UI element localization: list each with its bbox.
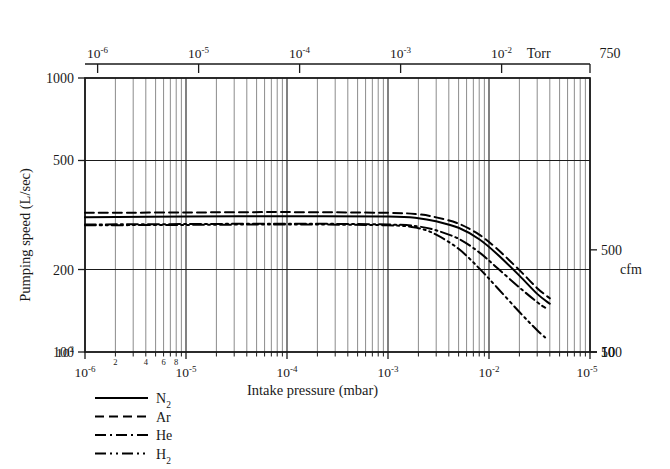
top-tick-label-1: 10-5 <box>188 45 209 61</box>
top-axis-end-label: 750 <box>600 46 621 61</box>
legend-label-he: He <box>156 428 172 443</box>
left-tick-label-500: 500 <box>53 153 74 168</box>
y-axis-title: Pumping speed (L/sec) <box>17 168 34 302</box>
bottom-minor-label-4: 4 <box>144 357 149 367</box>
bottom-tick-label-1: 10-5 <box>176 364 197 380</box>
top-axis-unit: Torr <box>527 46 551 61</box>
left-tick-label-200: 200 <box>53 263 74 278</box>
right-tick-label-500: 500 <box>601 243 622 258</box>
curve-h2 <box>85 224 545 337</box>
svg-text:10-5: 10-5 <box>577 364 598 380</box>
svg-text:10-4: 10-4 <box>289 45 310 61</box>
bottom-tick-label-last: 10-5 <box>577 364 598 380</box>
legend-label-n2: N2 <box>156 391 171 410</box>
bottom-minor-label-8: 8 <box>174 357 178 367</box>
top-tick-label-2: 10-4 <box>289 45 310 61</box>
svg-text:10-3: 10-3 <box>390 45 411 61</box>
bottom-tick-label-3: 10-3 <box>378 364 399 380</box>
svg-text:10-5: 10-5 <box>176 364 197 380</box>
plot-frame <box>85 78 590 352</box>
top-axis <box>98 64 502 73</box>
legend-label-h2: H2 <box>156 447 171 466</box>
left-axis <box>78 78 85 352</box>
top-tick-label-0: 10-6 <box>87 45 108 61</box>
svg-text:10-5: 10-5 <box>188 45 209 61</box>
svg-text:10-6: 10-6 <box>75 364 96 380</box>
chart-canvas: 10-610-510-410-310-210-52468Intake press… <box>0 0 670 469</box>
top-tick-label-3: 10-3 <box>390 45 411 61</box>
right-tick-label-10: 10 <box>601 345 615 360</box>
svg-text:10-3: 10-3 <box>378 364 399 380</box>
left-tick-label-1000: 1000 <box>46 71 74 86</box>
right-axis-unit: cfm <box>620 262 642 277</box>
right-axis <box>590 250 597 352</box>
svg-text:10-6: 10-6 <box>87 45 108 61</box>
x-axis-title: Intake pressure (mbar) <box>247 382 378 399</box>
gridlines <box>85 78 590 352</box>
pumping-speed-chart: 10-610-510-410-310-210-52468Intake press… <box>0 0 670 469</box>
svg-text:10-2: 10-2 <box>479 364 500 380</box>
top-tick-label-4: 10-2 <box>491 45 512 61</box>
bottom-tick-label-4: 10-2 <box>479 364 500 380</box>
bottom-minor-label-2: 2 <box>113 357 117 367</box>
bottom-tick-label-0: 10-6 <box>75 364 96 380</box>
svg-text:10-4: 10-4 <box>277 364 298 380</box>
bottom-minor-label-6: 6 <box>161 357 165 367</box>
legend-label-ar: Ar <box>156 410 171 425</box>
svg-text:Pumping speed (L/sec): Pumping speed (L/sec) <box>17 168 34 302</box>
bottom-tick-label-2: 10-4 <box>277 364 298 380</box>
svg-text:10-2: 10-2 <box>491 45 512 61</box>
